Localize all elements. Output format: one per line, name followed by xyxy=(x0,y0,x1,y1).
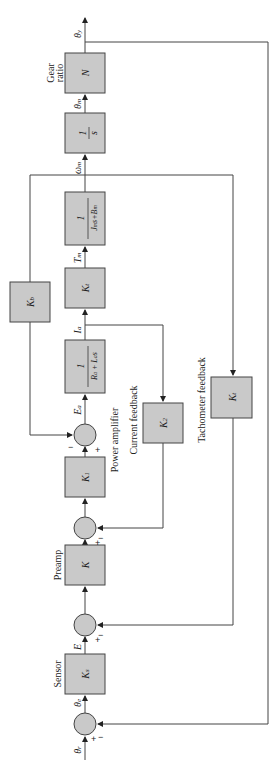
svg-text:+: + xyxy=(95,445,100,455)
svg-text:−: − xyxy=(98,732,103,742)
svg-text:Sensor: Sensor xyxy=(52,660,63,688)
summer-current xyxy=(74,517,96,539)
svg-text:Ra + Las: Ra + Las xyxy=(90,352,99,381)
summer-tach xyxy=(74,614,96,636)
svg-text:1: 1 xyxy=(75,216,86,221)
svg-text:Current feedback: Current feedback xyxy=(128,385,139,454)
summer-error xyxy=(74,713,96,735)
block-diagram: N 1 s 1 Jms+Bm Kt 1 Ra + Las K1 K Ks Kb … xyxy=(0,0,277,772)
svg-text:ratio: ratio xyxy=(54,64,65,82)
svg-text:N: N xyxy=(80,68,91,77)
svg-text:θm: θm xyxy=(72,99,83,109)
svg-text:+: + xyxy=(91,734,96,744)
svg-text:K: K xyxy=(80,560,91,569)
svg-text:Tm: Tm xyxy=(72,253,83,264)
svg-text:s: s xyxy=(88,131,99,135)
svg-text:−: − xyxy=(98,533,103,543)
svg-text:Tachometer feedback: Tachometer feedback xyxy=(196,357,207,443)
svg-text:1: 1 xyxy=(77,131,88,136)
svg-text:ωm: ωm xyxy=(72,162,83,174)
svg-text:−: − xyxy=(98,630,103,640)
summer-power-amp xyxy=(74,424,96,446)
svg-text:Jms+Bm: Jms+Bm xyxy=(90,205,99,231)
svg-text:Ia: Ia xyxy=(72,326,83,334)
svg-text:−: − xyxy=(68,442,73,452)
svg-text:Preamp: Preamp xyxy=(52,550,63,581)
svg-text:Ea: Ea xyxy=(72,405,83,416)
svg-text:θe: θe xyxy=(72,699,83,707)
svg-text:E: E xyxy=(72,644,83,651)
tach-feedback-line xyxy=(85,175,233,375)
svg-text:1: 1 xyxy=(75,364,86,369)
svg-text:θr: θr xyxy=(72,746,83,754)
svg-text:Power amplifier: Power amplifier xyxy=(109,407,120,472)
svg-text:θy: θy xyxy=(72,29,83,38)
